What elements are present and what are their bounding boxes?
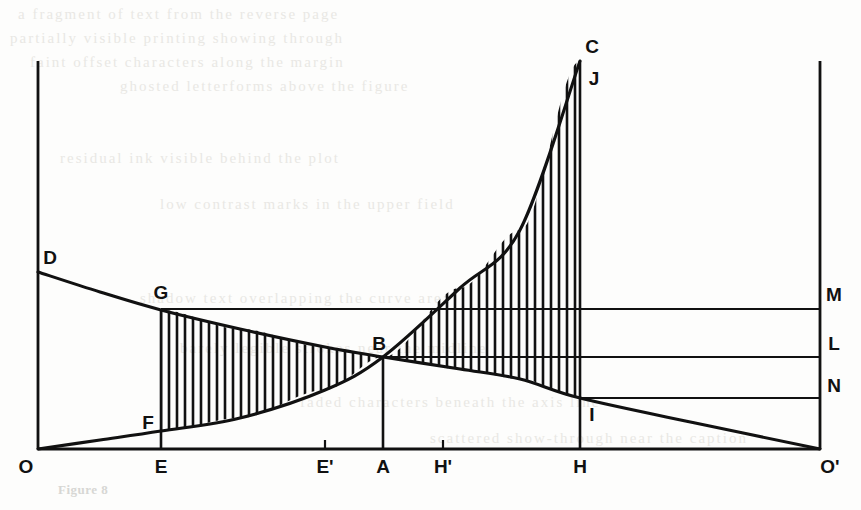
point-label-N: N	[827, 375, 841, 396]
point-label-Ep: E'	[316, 456, 333, 477]
point-label-O: O	[19, 456, 34, 477]
point-label-Hp: H'	[434, 456, 452, 477]
plotted-curves	[38, 61, 820, 449]
point-label-Op: O'	[820, 456, 839, 477]
axes	[38, 61, 820, 449]
figure-caption: Figure 8	[58, 482, 108, 498]
economics-diagram: ODEGFE'ABH'HCJIMLNO'	[0, 0, 861, 510]
point-label-G: G	[154, 282, 169, 303]
point-label-J: J	[589, 68, 600, 89]
point-label-C: C	[585, 36, 599, 57]
point-label-I: I	[589, 404, 594, 425]
point-label-M: M	[826, 284, 842, 305]
figure-container: a fragment of text from the reverse page…	[0, 0, 861, 510]
point-label-F: F	[142, 412, 154, 433]
right-hatched-region	[383, 40, 575, 460]
left-hatched-region	[161, 40, 377, 460]
level-lines	[161, 309, 820, 398]
ascending-curve-O-to-C	[38, 61, 580, 449]
point-label-E: E	[155, 456, 168, 477]
point-label-A: A	[376, 456, 390, 477]
point-label-B: B	[372, 333, 386, 354]
point-label-H: H	[573, 456, 587, 477]
point-label-L: L	[828, 333, 840, 354]
point-labels: ODEGFE'ABH'HCJIMLNO'	[19, 36, 842, 477]
point-label-D: D	[43, 247, 57, 268]
